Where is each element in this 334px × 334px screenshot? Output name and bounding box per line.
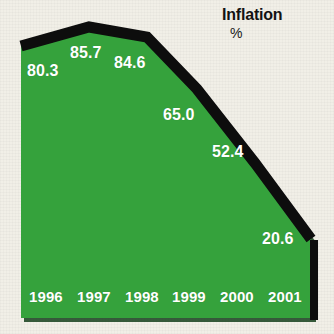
inflation-area-chart: 80.3 85.7 84.6 65.0 52.4 20.6 1996 1997 … [0,0,334,334]
chart-plot-area [0,0,334,334]
axis-label-2001: 2001 [268,288,302,305]
data-label-1999: 65.0 [163,106,195,124]
axis-label-1996: 1996 [29,288,63,305]
data-label-1996: 80.3 [27,62,59,80]
chart-title-block: Inflation % [218,6,326,42]
axis-label-2000: 2000 [220,288,254,305]
data-label-2000: 52.4 [212,143,244,161]
data-label-1998: 84.6 [114,54,146,72]
axis-label-1998: 1998 [125,288,159,305]
chart-unit-label: % [218,24,326,42]
chart-title: Inflation [218,6,326,24]
axis-label-1997: 1997 [77,288,111,305]
data-label-1997: 85.7 [70,44,102,62]
axis-label-1999: 1999 [172,288,206,305]
data-label-2001: 20.6 [262,230,294,248]
